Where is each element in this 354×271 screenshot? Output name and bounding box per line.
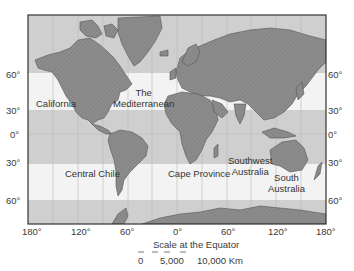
region-label-california: California [36,98,76,109]
scale-title: Scale at the Equator [153,239,239,250]
lon-label-60w: 60° [120,227,134,237]
lon-label-120e: 120° [268,227,288,237]
scale-tick-5000: 5,000 [160,255,184,266]
scale-tick-0: 0 [138,255,143,266]
lat-label-right-30n: 30° [328,106,342,116]
lat-label-left-60s: 60° [6,196,20,206]
lon-label-0: 0° [173,227,182,237]
lon-label-60e: 60° [221,227,235,237]
region-label-cape-province: Cape Province [168,168,230,179]
lat-label-right-60s: 60° [328,196,342,206]
lon-label-120w: 120° [71,227,91,237]
region-label-south-australia: South Australia [268,172,305,194]
region-label-southwest-australia: Southwest Australia [228,155,272,177]
lon-label-180w: 180° [22,227,42,237]
lat-label-right-0: 0° [328,130,337,140]
region-label-mediterranean: The Mediterranean [113,87,174,109]
lat-label-right-30s: 30° [328,158,342,168]
lat-label-left-30s: 30° [6,158,20,168]
scale-tick-10000: 10,000 Km [197,255,243,266]
lon-label-180e: 180° [316,227,336,237]
lat-label-left-0: 0° [10,130,19,140]
lat-label-left-60n: 60° [6,70,20,80]
lat-label-right-60n: 60° [328,70,342,80]
region-label-central-chile: Central Chile [65,168,120,179]
lat-label-left-30n: 30° [6,106,20,116]
